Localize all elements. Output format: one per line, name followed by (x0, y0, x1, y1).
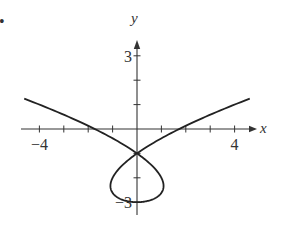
y-axis-arrow-icon (134, 40, 140, 49)
x-axis-arrow-icon (249, 126, 257, 132)
problem-bullet: • (0, 13, 5, 30)
axes (21, 40, 257, 215)
x-axis-label: x (259, 120, 267, 136)
parametric-curve-plot: • −443−3 x y (0, 0, 283, 231)
x-tick-label: 4 (231, 136, 239, 153)
y-axis-label: y (129, 10, 138, 26)
y-tick-label: 3 (124, 48, 132, 65)
x-tick-label: −4 (31, 136, 48, 153)
